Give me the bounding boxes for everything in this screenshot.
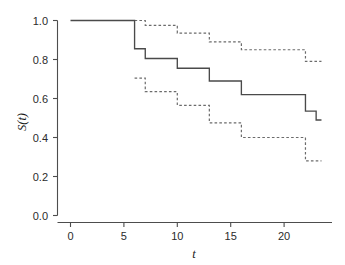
y-tick-label: 0.0 [33, 210, 48, 222]
plot-canvas: 1.0 0.8 0.6 0.4 0.2 0.0 S(t) 0 5 10 [0, 0, 345, 265]
y-tick-label: 0.6 [33, 93, 48, 105]
y-axis-ticks [53, 21, 58, 216]
x-tick-label: 10 [171, 230, 183, 242]
y-tick-label: 0.8 [33, 54, 48, 66]
upper-confidence-curve [135, 21, 322, 62]
x-axis-ticks [71, 223, 285, 228]
y-axis-tick-labels: 1.0 0.8 0.6 0.4 0.2 0.0 [33, 15, 48, 222]
x-tick-label: 5 [121, 230, 127, 242]
y-axis-title: S(t) [15, 113, 29, 131]
series-group [71, 21, 322, 161]
survival-plot-figure: 1.0 0.8 0.6 0.4 0.2 0.0 S(t) 0 5 10 [0, 0, 345, 265]
y-tick-label: 0.2 [33, 171, 48, 183]
x-tick-label: 0 [67, 230, 73, 242]
x-tick-label: 15 [225, 230, 237, 242]
y-tick-label: 0.4 [33, 132, 48, 144]
x-axis-tick-labels: 0 5 10 15 20 [67, 230, 290, 242]
y-axis-group: 1.0 0.8 0.6 0.4 0.2 0.0 S(t) [15, 15, 58, 222]
lower-confidence-curve [135, 78, 322, 161]
y-tick-label: 1.0 [33, 15, 48, 27]
x-axis-title: t [192, 247, 196, 261]
x-axis-group: 0 5 10 15 20 t [58, 223, 333, 262]
x-tick-label: 20 [278, 230, 290, 242]
